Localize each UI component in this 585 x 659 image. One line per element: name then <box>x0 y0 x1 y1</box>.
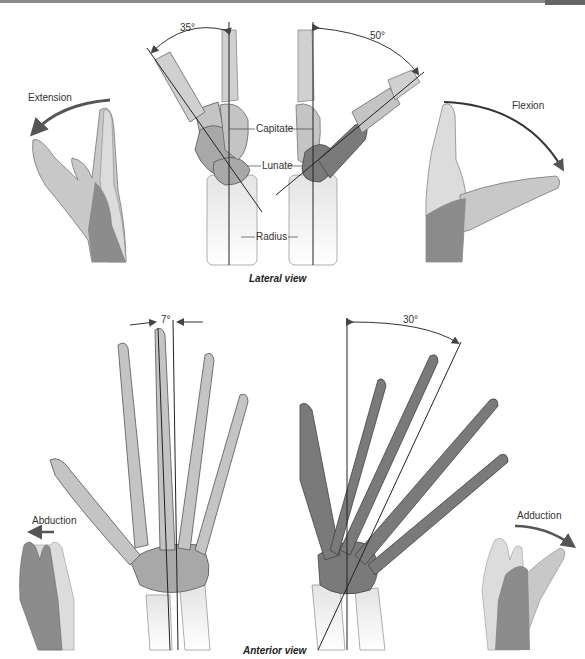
abduction-label: Abduction <box>32 515 76 526</box>
adduction-hand <box>482 526 572 650</box>
flexion-angle-label: 50° <box>370 30 385 41</box>
anterior-view-caption: Anterior view <box>243 645 306 656</box>
adduction-label: Adduction <box>517 510 561 521</box>
lateral-extension-bones <box>147 22 262 265</box>
radius-label: Radius <box>256 231 287 242</box>
anterior-abduction-bones <box>50 320 248 650</box>
lateral-flexion-bones <box>276 22 424 265</box>
abduction-hand <box>20 532 75 650</box>
lateral-view-caption: Lateral view <box>249 273 306 284</box>
abduction-angle-label: 7° <box>161 314 171 325</box>
lunate-label: Lunate <box>262 160 293 171</box>
wrist-motion-diagram <box>0 0 585 659</box>
anterior-adduction-bones <box>300 318 508 650</box>
extension-angle-label: 35° <box>180 22 195 33</box>
flexion-hand <box>426 102 562 262</box>
extension-label: Extension <box>28 92 72 103</box>
extension-hand <box>33 100 127 262</box>
adduction-angle-label: 30° <box>403 314 418 325</box>
capitate-label: Capitate <box>256 123 293 134</box>
flexion-label: Flexion <box>512 100 544 111</box>
